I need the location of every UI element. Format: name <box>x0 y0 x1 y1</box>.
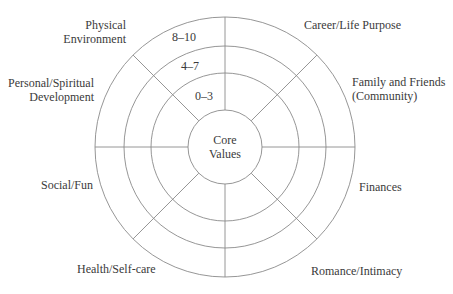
segment-career-life-purpose: Career/Life Purpose <box>304 18 401 32</box>
segment-family-friends: Family and Friends (Community) <box>352 75 445 103</box>
segment-label-line1: Family and Friends <box>352 75 445 89</box>
segment-label: Finances <box>359 180 402 194</box>
core-label-line1: Core <box>200 133 250 147</box>
segment-physical-environment: Physical Environment <box>50 18 126 46</box>
segment-label-line1: Personal/Spiritual <box>6 76 94 90</box>
segment-label: Social/Fun <box>41 178 93 192</box>
segment-label-line2: (Community) <box>352 89 445 103</box>
core-label-line2: Values <box>200 147 250 161</box>
segment-label: Career/Life Purpose <box>304 18 401 32</box>
segment-romance-intimacy: Romance/Intimacy <box>311 264 402 278</box>
core-values-label: Core Values <box>200 133 250 161</box>
segment-finances: Finances <box>359 180 402 194</box>
segment-label: Health/Self-care <box>77 262 156 276</box>
scale-label-0-3: 0–3 <box>195 89 213 103</box>
segment-social-fun: Social/Fun <box>41 178 93 192</box>
scale-label-8-10: 8–10 <box>172 30 196 44</box>
segment-personal-spiritual: Personal/Spiritual Development <box>6 76 94 104</box>
segment-health-self-care: Health/Self-care <box>77 262 156 276</box>
scale-label-4-7: 4–7 <box>181 59 199 73</box>
segment-label-line2: Development <box>6 90 94 104</box>
segment-label-line1: Physical <box>50 18 126 32</box>
segment-label-line2: Environment <box>50 32 126 46</box>
segment-label: Romance/Intimacy <box>311 264 402 278</box>
